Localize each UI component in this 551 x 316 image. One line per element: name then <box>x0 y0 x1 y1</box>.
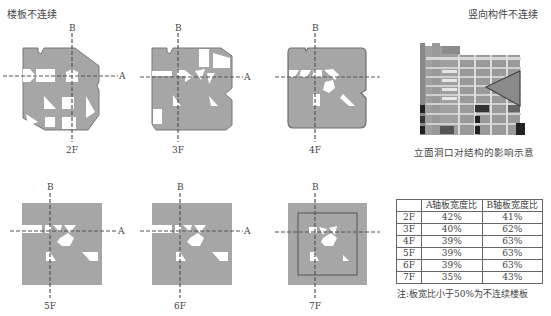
table-row: 6F 39% 63% <box>397 260 543 272</box>
floor-label-3f: 3F <box>163 145 193 155</box>
table-header-a-ratio: A轴板宽度比 <box>422 200 483 212</box>
table-cell-b-ratio: 63% <box>482 236 543 248</box>
table-cell-a-ratio: 42% <box>422 212 483 224</box>
axis-a-label: A <box>244 226 251 236</box>
table-note: 注:板宽比小于50%为不连续楼板 <box>397 287 528 300</box>
plan-4f-drawing <box>255 20 385 160</box>
elevation-drawing <box>420 43 525 135</box>
table-header-b-ratio: B轴板宽度比 <box>482 200 543 212</box>
table-cell-b-ratio: 43% <box>482 272 543 284</box>
table-cell-a-ratio: 39% <box>422 260 483 272</box>
axis-a-label: A <box>118 226 125 236</box>
axis-b-label: B <box>312 23 319 33</box>
table-cell-a-ratio: 39% <box>422 248 483 260</box>
slab-width-ratio-table: A轴板宽度比 B轴板宽度比 2F 42% 41% 3F 40% 62% 4F 3… <box>396 199 543 284</box>
floor-plan-7f: B 7F <box>255 175 385 315</box>
floor-plan-2f: B A 2F <box>0 20 130 160</box>
floor-label-6f: 6F <box>165 301 195 311</box>
table-cell-floor: 7F <box>397 272 422 284</box>
table-cell-a-ratio: 35% <box>422 272 483 284</box>
axis-b-label: B <box>47 182 54 192</box>
table-cell-b-ratio: 62% <box>482 224 543 236</box>
plan-2f-drawing <box>0 20 130 160</box>
plan-7f-drawing <box>255 175 385 315</box>
heading-vertical-discontinuity: 竖向构件不连续 <box>468 6 538 21</box>
floor-plan-3f: B A 3F <box>125 20 255 160</box>
table-cell-floor: 4F <box>397 236 422 248</box>
floor-plan-4f: B 4F <box>255 20 385 160</box>
table-cell-a-ratio: 40% <box>422 224 483 236</box>
floor-label-7f: 7F <box>300 301 330 311</box>
table-cell-b-ratio: 63% <box>482 248 543 260</box>
table-cell-floor: 5F <box>397 248 422 260</box>
table-header-corner <box>397 200 422 212</box>
table-cell-floor: 3F <box>397 224 422 236</box>
table-cell-b-ratio: 63% <box>482 260 543 272</box>
floor-plan-5f: B A 5F <box>0 175 130 315</box>
table-header-row: A轴板宽度比 B轴板宽度比 <box>397 200 543 212</box>
floor-plan-6f: B A 6F <box>125 175 255 315</box>
axis-b-label: B <box>177 182 184 192</box>
table-row: 2F 42% 41% <box>397 212 543 224</box>
table-row: 5F 39% 63% <box>397 248 543 260</box>
table-row: 3F 40% 62% <box>397 224 543 236</box>
elevation-diagram <box>420 43 525 135</box>
table-cell-a-ratio: 39% <box>422 236 483 248</box>
table-cell-b-ratio: 41% <box>482 212 543 224</box>
axis-b-label: B <box>69 23 76 33</box>
heading-slab-discontinuity: 楼板不连续 <box>7 6 57 21</box>
floor-label-5f: 5F <box>35 301 65 311</box>
floor-label-4f: 4F <box>300 145 330 155</box>
axis-b-label: B <box>175 23 182 33</box>
plan-6f-drawing <box>125 175 255 315</box>
table-cell-floor: 6F <box>397 260 422 272</box>
table-row: 4F 39% 63% <box>397 236 543 248</box>
axis-b-label: B <box>312 182 319 192</box>
elevation-caption: 立面洞口对结构的影响示意 <box>414 145 534 159</box>
floor-label-2f: 2F <box>57 145 87 155</box>
table-row: 7F 35% 43% <box>397 272 543 284</box>
plan-5f-drawing <box>0 175 130 315</box>
plan-3f-drawing <box>125 20 255 160</box>
axis-a-label: A <box>244 72 251 82</box>
table-cell-floor: 2F <box>397 212 422 224</box>
